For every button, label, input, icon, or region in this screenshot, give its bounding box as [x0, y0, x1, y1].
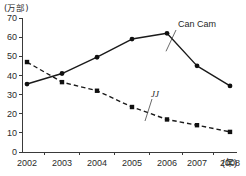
- chart-page: (万部) 010203040506070 2002200320042005200…: [0, 0, 246, 176]
- data-point-marker: [95, 55, 100, 60]
- series-line-cancam: [27, 33, 230, 86]
- y-tick-label: 50: [7, 51, 17, 61]
- y-tick-label: 60: [7, 32, 17, 42]
- y-tick-label: 70: [7, 13, 17, 23]
- y-axis-ticks: 010203040506070: [7, 13, 22, 157]
- data-point-marker: [95, 89, 99, 93]
- data-point-marker: [228, 84, 233, 89]
- x-tick-label: 2005: [122, 158, 142, 168]
- series-markers-jj: [25, 60, 232, 134]
- data-point-marker: [165, 117, 169, 121]
- series-line-jj: [27, 62, 230, 132]
- leader-line-jj: [145, 99, 152, 121]
- series-label-cancam: Can Cam: [178, 19, 216, 29]
- y-tick-label: 30: [7, 90, 17, 100]
- x-tick-label: 2004: [87, 158, 107, 168]
- data-point-marker: [130, 105, 134, 109]
- x-tick-label: 2007: [187, 158, 207, 168]
- x-tick-label: 2006: [157, 158, 177, 168]
- data-point-marker: [25, 82, 30, 87]
- x-axis-unit-label: (年): [222, 157, 237, 168]
- series-label-jj: JJ: [151, 89, 160, 99]
- data-point-marker: [195, 63, 200, 68]
- data-point-marker: [130, 37, 135, 42]
- data-point-marker: [60, 71, 65, 76]
- data-point-marker: [195, 123, 199, 127]
- series-markers-cancam: [25, 31, 233, 88]
- data-point-marker: [25, 60, 29, 64]
- y-tick-label: 10: [7, 128, 17, 138]
- y-tick-label: 0: [12, 147, 17, 157]
- y-axis-unit-label: (万部): [4, 3, 29, 13]
- data-point-marker: [60, 80, 64, 84]
- data-point-marker: [165, 31, 170, 36]
- x-tick-label: 2003: [52, 158, 72, 168]
- line-chart: (万部) 010203040506070 2002200320042005200…: [0, 0, 246, 176]
- data-point-marker: [228, 130, 232, 134]
- y-tick-label: 40: [7, 71, 17, 81]
- x-tick-label: 2002: [17, 158, 37, 168]
- x-axis-ticks: 2002200320042005200620072008: [17, 152, 240, 168]
- y-tick-label: 20: [7, 109, 17, 119]
